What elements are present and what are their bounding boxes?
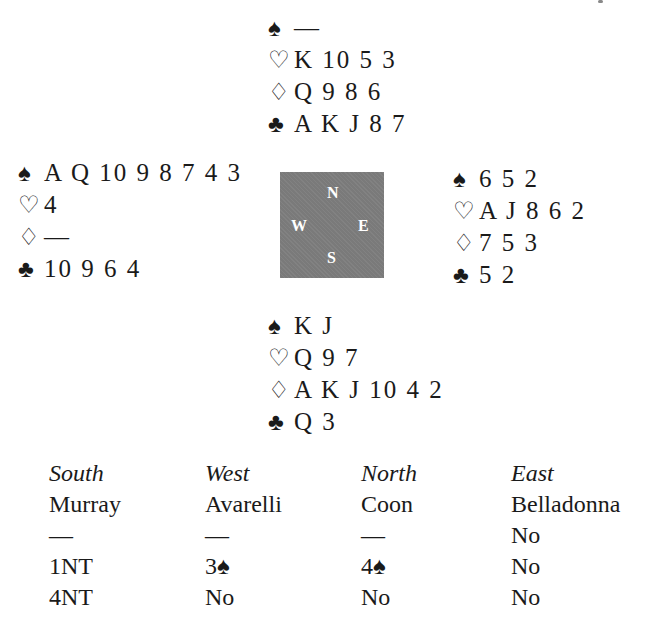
bid: No bbox=[511, 522, 659, 549]
north-clubs: ♣A K J 8 7 bbox=[268, 108, 406, 140]
seat-north: North bbox=[361, 460, 511, 487]
bid: No bbox=[511, 553, 659, 580]
bid: — bbox=[361, 522, 511, 549]
auction-table: South West North East Murray Avarelli Co… bbox=[49, 458, 659, 613]
auction-round: — — — No bbox=[49, 520, 659, 551]
west-spades: ♠A Q 10 9 8 7 4 3 bbox=[18, 157, 242, 189]
spade-icon: ♠ bbox=[453, 163, 479, 195]
seat-south: South bbox=[49, 460, 205, 487]
east-hearts: ♡A J 8 6 2 bbox=[453, 195, 586, 227]
seat-east: East bbox=[511, 460, 659, 487]
seat-west: West bbox=[205, 460, 361, 487]
heart-icon: ♡ bbox=[453, 195, 479, 227]
south-spades: ♠K J bbox=[268, 310, 444, 342]
heart-icon: ♡ bbox=[18, 189, 44, 221]
bid: No bbox=[205, 584, 361, 611]
compass-south: S bbox=[327, 249, 336, 267]
bid: 4♠ bbox=[361, 553, 511, 580]
west-clubs: ♣10 9 6 4 bbox=[18, 253, 242, 285]
club-icon: ♣ bbox=[453, 259, 479, 291]
club-icon: ♣ bbox=[268, 108, 294, 140]
diamond-icon: ♢ bbox=[268, 76, 294, 108]
north-spades: ♠— bbox=[268, 12, 406, 44]
east-hand: ♠6 5 2 ♡A J 8 6 2 ♢7 5 3 ♣5 2 bbox=[453, 163, 586, 291]
south-hand: ♠K J ♡Q 9 7 ♢A K J 10 4 2 ♣Q 3 bbox=[268, 310, 444, 438]
north-diamonds: ♢Q 9 8 6 bbox=[268, 76, 406, 108]
spade-icon: ♠ bbox=[268, 310, 294, 342]
west-diamonds: ♢— bbox=[18, 221, 242, 253]
diamond-icon: ♢ bbox=[453, 227, 479, 259]
diamond-icon: ♢ bbox=[18, 221, 44, 253]
bid: No bbox=[511, 584, 659, 611]
club-icon: ♣ bbox=[268, 406, 294, 438]
spade-icon: ♠ bbox=[18, 157, 44, 189]
bid: 1NT bbox=[49, 553, 205, 580]
heart-icon: ♡ bbox=[268, 342, 294, 374]
spade-icon: ♠ bbox=[268, 12, 294, 44]
diamond-icon: ♢ bbox=[268, 374, 294, 406]
print-speck bbox=[598, 0, 603, 3]
club-icon: ♣ bbox=[18, 253, 44, 285]
west-hand: ♠A Q 10 9 8 7 4 3 ♡4 ♢— ♣10 9 6 4 bbox=[18, 157, 242, 285]
compass-north: N bbox=[327, 184, 339, 202]
bid: No bbox=[361, 584, 511, 611]
player-east: Belladonna bbox=[511, 491, 659, 518]
bid: 3♠ bbox=[205, 553, 361, 580]
player-north: Coon bbox=[361, 491, 511, 518]
compass-box: N W E S bbox=[280, 172, 384, 278]
auction-player-row: Murray Avarelli Coon Belladonna bbox=[49, 489, 659, 520]
auction-round: 1NT 3♠ 4♠ No bbox=[49, 551, 659, 582]
player-south: Murray bbox=[49, 491, 205, 518]
south-clubs: ♣Q 3 bbox=[268, 406, 444, 438]
east-clubs: ♣5 2 bbox=[453, 259, 586, 291]
bid: — bbox=[205, 522, 361, 549]
compass-east: E bbox=[358, 217, 369, 235]
player-west: Avarelli bbox=[205, 491, 361, 518]
auction-seat-row: South West North East bbox=[49, 458, 659, 489]
compass-west: W bbox=[291, 217, 307, 235]
east-spades: ♠6 5 2 bbox=[453, 163, 586, 195]
north-hearts: ♡K 10 5 3 bbox=[268, 44, 406, 76]
bid: 4NT bbox=[49, 584, 205, 611]
bid: — bbox=[49, 522, 205, 549]
north-hand: ♠— ♡K 10 5 3 ♢Q 9 8 6 ♣A K J 8 7 bbox=[268, 12, 406, 140]
west-hearts: ♡4 bbox=[18, 189, 242, 221]
east-diamonds: ♢7 5 3 bbox=[453, 227, 586, 259]
south-diamonds: ♢A K J 10 4 2 bbox=[268, 374, 444, 406]
auction-round: 4NT No No No bbox=[49, 582, 659, 613]
south-hearts: ♡Q 9 7 bbox=[268, 342, 444, 374]
heart-icon: ♡ bbox=[268, 44, 294, 76]
